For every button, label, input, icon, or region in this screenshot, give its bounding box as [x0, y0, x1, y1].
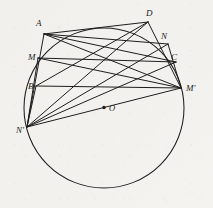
center-point-dot: [102, 106, 105, 109]
point-label-c: C: [171, 52, 178, 62]
geometry-figure: O ADNCMBM'N': [0, 0, 213, 208]
center-marker-group: O: [102, 103, 115, 113]
chord-N-Np: [27, 44, 168, 127]
chord-group: [27, 22, 181, 127]
point-label-m: M: [27, 52, 36, 62]
chord-M-Np: [27, 58, 38, 127]
point-label-np: N': [15, 125, 25, 135]
point-label-d: D: [145, 8, 153, 18]
center-label-o: O: [109, 103, 115, 113]
point-label-n: N: [160, 31, 168, 41]
point-label-b: B: [28, 81, 34, 91]
chord-B-Mp: [36, 86, 181, 88]
figure-canvas: O ADNCMBM'N': [0, 0, 213, 208]
chord-A-D: [44, 22, 148, 34]
point-label-mp: M': [185, 83, 196, 93]
point-label-a: A: [35, 18, 42, 28]
chord-B-D: [36, 22, 148, 86]
